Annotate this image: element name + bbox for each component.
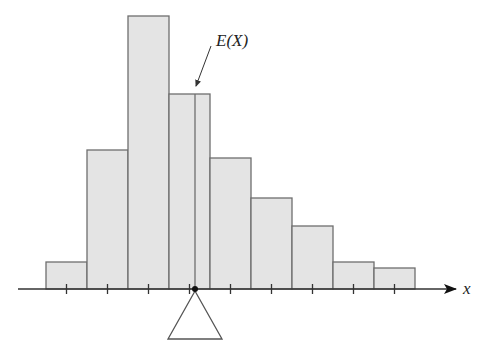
balance-histogram-figure: x E(X) xyxy=(0,0,495,356)
mean-pointer-arrow xyxy=(196,46,211,86)
histogram-bar xyxy=(87,150,128,289)
fulcrum-triangle xyxy=(168,291,222,339)
x-axis-label: x xyxy=(462,279,471,298)
histogram-bar xyxy=(210,158,251,289)
expected-value-label: E(X) xyxy=(215,31,248,50)
histogram-bar xyxy=(169,94,210,289)
fulcrum-dot xyxy=(192,286,198,292)
histogram-bar xyxy=(128,16,169,289)
histogram-bar xyxy=(292,226,333,289)
histogram-bars xyxy=(46,16,415,289)
histogram-bar xyxy=(251,198,292,289)
